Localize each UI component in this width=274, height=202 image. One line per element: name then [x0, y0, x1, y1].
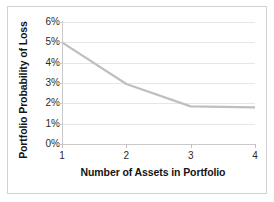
y-tick-mark [59, 103, 62, 104]
y-axis-line [62, 21, 63, 145]
plot-area [62, 22, 255, 144]
x-tick-mark [62, 144, 63, 148]
x-tick-label: 2 [116, 151, 136, 161]
x-tick-label: 3 [181, 151, 201, 161]
y-tick-mark [59, 63, 62, 64]
y-tick-mark [59, 22, 62, 23]
x-axis-line [62, 144, 255, 145]
x-tick-label: 1 [52, 151, 72, 161]
y-tick-mark [59, 83, 62, 84]
series-line-chart [62, 22, 255, 144]
chart-figure: Portfolio Probability of Loss Number of … [0, 0, 274, 202]
x-tick-mark [255, 144, 256, 148]
y-tick-mark [59, 42, 62, 43]
x-tick-label: 4 [245, 151, 265, 161]
x-tick-mark [191, 144, 192, 148]
y-tick-mark [59, 124, 62, 125]
x-tick-mark [126, 144, 127, 148]
series-line-path [62, 42, 255, 107]
